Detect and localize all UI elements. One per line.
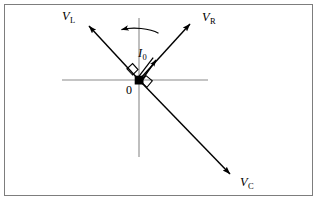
phasor-label-vr-subscript: R bbox=[210, 16, 216, 26]
phasor-label-vl-subscript: L bbox=[70, 15, 75, 25]
phasor-vector-vc bbox=[139, 80, 230, 174]
phasor-label-vc-subscript: C bbox=[248, 181, 254, 191]
phasor-label-vl-symbol: V bbox=[62, 9, 70, 23]
origin-label: 0 bbox=[126, 84, 132, 96]
phasor-label-vc: VC bbox=[240, 176, 254, 189]
phasor-diagram-canvas bbox=[0, 0, 319, 202]
phasor-figure: VL VR VC I0 0 bbox=[0, 0, 319, 202]
phasor-label-vr-symbol: V bbox=[202, 10, 210, 24]
phasor-vector-vl bbox=[89, 26, 139, 80]
phasor-label-vc-symbol: V bbox=[240, 175, 248, 189]
phasor-label-vr: VR bbox=[202, 11, 216, 24]
rotation-direction-arrow bbox=[122, 28, 159, 33]
phasor-label-i0: I0 bbox=[138, 47, 147, 60]
phasor-label-i0-symbol: I bbox=[138, 46, 142, 60]
origin-point-marker bbox=[135, 76, 144, 85]
phasor-label-vl: VL bbox=[62, 10, 75, 23]
phasor-label-i0-subscript: 0 bbox=[143, 52, 147, 62]
